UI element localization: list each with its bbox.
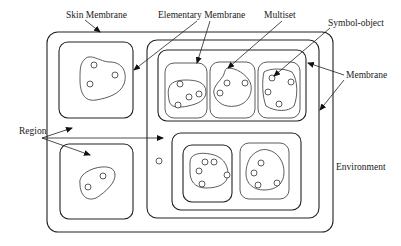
- arrow-elementary-to-elem1: [197, 21, 210, 63]
- elementary-membrane-2: [210, 62, 255, 118]
- symbol-object: [202, 159, 208, 165]
- symbol-object-free: [156, 158, 162, 164]
- multiset-2: [214, 68, 251, 106]
- right-membrane: [147, 40, 319, 218]
- symbol-object: [274, 180, 280, 186]
- membrane-diagram: Skin Membrane Elementary Membrane Multis…: [0, 0, 401, 246]
- symbol-object: [224, 80, 230, 86]
- bottom-membrane-b: [240, 143, 289, 199]
- symbol-object: [211, 159, 217, 165]
- label-region: Region: [19, 126, 47, 136]
- top-left-multiset: [80, 57, 125, 100]
- symbol-object: [276, 101, 282, 107]
- arrow-symbol-object: [274, 28, 330, 76]
- symbol-object: [255, 182, 261, 188]
- bottom-left-multiset: [80, 167, 115, 199]
- symbol-object: [265, 89, 271, 95]
- symbol-object: [177, 81, 183, 87]
- arrow-region-3: [42, 138, 90, 155]
- elementary-membrane-3: [258, 62, 300, 118]
- arrow-skin-membrane: [85, 20, 100, 32]
- label-symbol-object: Symbol-object: [328, 18, 384, 28]
- symbol-object: [251, 170, 257, 176]
- label-multiset: Multiset: [264, 10, 296, 20]
- symbol-object: [242, 80, 248, 86]
- label-skin-membrane: Skin Membrane: [66, 10, 127, 20]
- symbol-object: [199, 181, 205, 187]
- symbol-object: [112, 72, 118, 78]
- symbol-object: [186, 94, 192, 100]
- symbol-object: [217, 90, 223, 96]
- symbol-object: [85, 184, 91, 190]
- elementary-membrane-1: [165, 63, 207, 118]
- symbol-object: [91, 62, 97, 68]
- arrow-membrane-1: [308, 63, 344, 75]
- symbol-object: [100, 173, 106, 179]
- label-elementary-membrane: Elementary Membrane: [158, 10, 245, 20]
- symbol-object: [175, 102, 181, 108]
- arrow-multiset: [228, 21, 282, 68]
- label-membrane: Membrane: [346, 70, 387, 80]
- bottom-left-membrane: [60, 144, 133, 219]
- symbol-object: [196, 168, 202, 174]
- symbol-object: [258, 160, 264, 166]
- symbol-object: [196, 91, 202, 97]
- symbol-object: [87, 81, 93, 87]
- symbol-object: [224, 172, 230, 178]
- arrow-membrane-2: [320, 80, 344, 110]
- top-left-membrane: [59, 42, 133, 118]
- label-environment: Environment: [336, 162, 386, 172]
- symbol-object: [288, 79, 294, 85]
